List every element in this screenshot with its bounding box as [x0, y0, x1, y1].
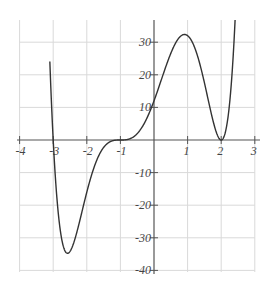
y-tick-label: 20	[139, 68, 151, 82]
x-tick-label: 3	[250, 144, 257, 158]
y-tick-label: -10	[135, 166, 151, 180]
x-tick-label: 2	[217, 144, 223, 158]
x-tick-label: -2	[83, 144, 93, 158]
function-graph: -4-3-2-1123302010-10-20-30-40	[0, 0, 268, 295]
x-tick-label: 1	[184, 144, 190, 158]
y-tick-label: -20	[135, 198, 151, 212]
x-tick-label: -1	[116, 144, 126, 158]
y-tick-label: -40	[135, 263, 151, 277]
y-tick-label: -30	[135, 231, 151, 245]
x-tick-label: -4	[16, 144, 26, 158]
y-tick-label: 30	[138, 35, 151, 49]
tick-labels: -4-3-2-1123302010-10-20-30-40	[16, 35, 257, 277]
